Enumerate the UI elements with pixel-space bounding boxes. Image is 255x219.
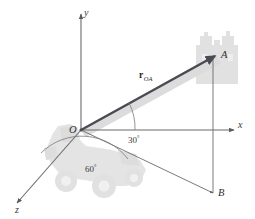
angle-30-label: 30°: [128, 135, 140, 145]
z-axis-label: z: [14, 204, 19, 215]
vector-diagram-figure: y x z O A B 30° 60° rOA: [0, 0, 255, 219]
diagram-canvas: y x z O A B 30° 60° rOA: [0, 0, 255, 219]
origin-point-marker: [79, 128, 82, 131]
vector-shadow-band: [81, 54, 221, 137]
y-axis-label: y: [83, 7, 89, 18]
point-a-label: A: [220, 49, 228, 60]
vector-roa-label: rOA: [139, 70, 152, 82]
x-axis-label: x: [237, 119, 243, 130]
origin-point-label: O: [69, 124, 77, 135]
vector-roa-arrow: [81, 56, 215, 130]
point-b-label: B: [218, 187, 225, 198]
